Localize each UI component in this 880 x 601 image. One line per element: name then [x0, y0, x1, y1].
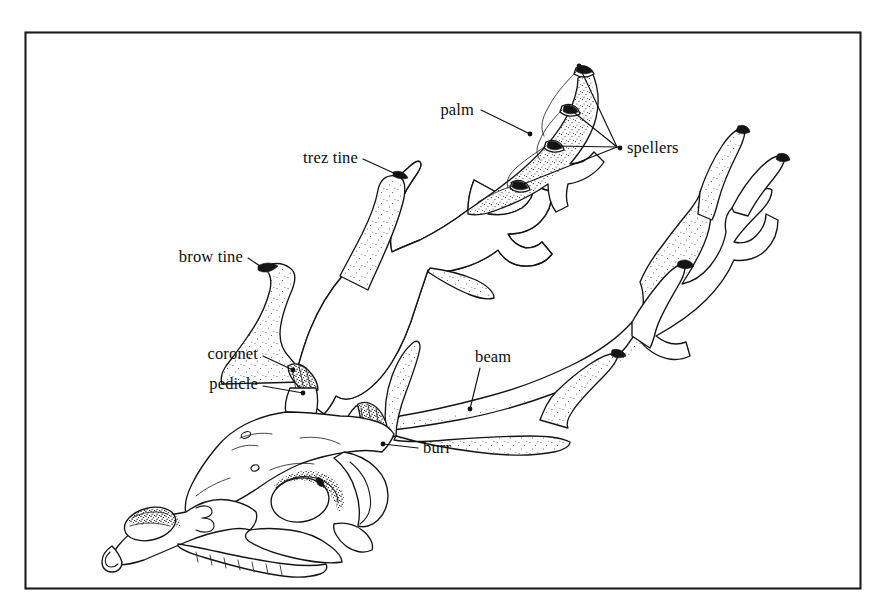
label-text-palm: palm — [440, 100, 474, 119]
left-antler-lower-spur-shading — [430, 268, 492, 297]
right-antler-tine-upper-tip — [736, 125, 750, 133]
speller-tip-3-dot — [553, 144, 558, 149]
label-text-beam: beam — [475, 347, 511, 366]
label-text-trez-tine: trez tine — [303, 148, 358, 167]
speller-tip-4-dot — [519, 183, 524, 188]
leader-dot-burr — [381, 442, 386, 447]
leader-line-trez-tine — [363, 159, 398, 175]
right-antler-tine-mid-tip — [776, 153, 790, 161]
label-text-spellers: spellers — [627, 138, 679, 157]
speller-tip-2-dot — [569, 108, 574, 113]
leader-dot-pedicle — [301, 391, 306, 396]
leader-dot-coronet — [291, 368, 296, 373]
figure-root: palmspellerstrez tinebrow tinecoronetped… — [0, 0, 880, 601]
leader-line-burr — [383, 444, 418, 448]
label-brow-tine: brow tine — [179, 247, 266, 270]
leader-dot-trez-tine — [396, 173, 401, 178]
antler-anatomy-illustration: palmspellerstrez tinebrow tinecoronetped… — [0, 0, 880, 601]
label-palm: palm — [440, 100, 532, 136]
zygomatic-arch — [246, 529, 343, 563]
leader-line-brow-tine — [248, 258, 263, 268]
leader-dot-beam — [468, 407, 473, 412]
leader-dot-palm — [528, 132, 533, 137]
label-trez-tine: trez tine — [303, 148, 400, 177]
skull — [102, 412, 394, 577]
speller-tip-1-dot — [577, 64, 582, 69]
label-layer: palmspellerstrez tinebrow tinecoronetped… — [179, 100, 679, 457]
label-spellers: spellers — [618, 138, 679, 157]
temporal-fossa — [334, 523, 373, 552]
label-text-burr: burr — [423, 438, 451, 457]
label-text-pedicle: pedicle — [209, 374, 258, 393]
label-text-brow-tine: brow tine — [179, 247, 243, 266]
right-antler-low-forward-shading — [396, 436, 568, 455]
leader-dot-brow-tine — [261, 266, 266, 271]
label-text-coronet: coronet — [207, 344, 258, 363]
leader-line-palm — [481, 110, 530, 134]
leader-dot-spellers — [618, 146, 623, 151]
skull-occipital — [334, 452, 388, 527]
